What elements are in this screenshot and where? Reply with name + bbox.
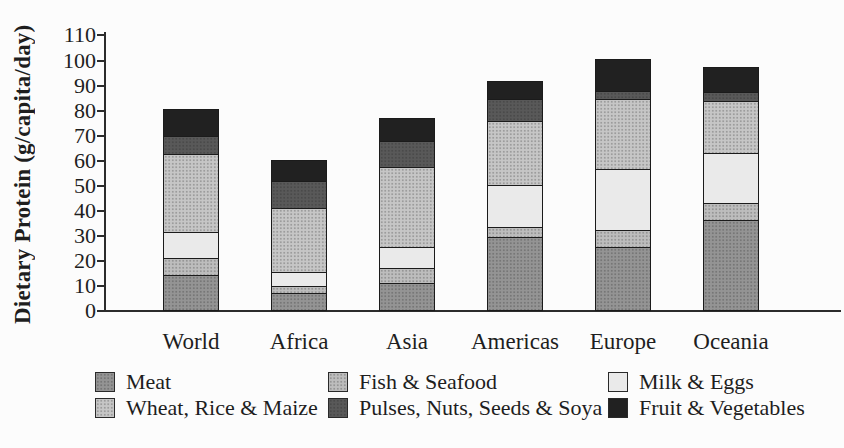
bar-segment xyxy=(595,99,651,169)
y-tick-mark xyxy=(97,135,105,137)
bar-segment xyxy=(163,109,219,135)
legend-swatch-icon xyxy=(608,372,628,392)
y-tick-label: 30 xyxy=(36,225,96,247)
y-tick-mark xyxy=(97,60,105,62)
bar-segment xyxy=(703,220,759,311)
bar-segment xyxy=(703,92,759,101)
legend-item: Meat xyxy=(95,371,328,392)
legend-swatch-icon xyxy=(95,372,115,392)
bar-segment xyxy=(271,293,327,311)
bar-segment xyxy=(271,160,327,181)
y-tick-label: 80 xyxy=(36,100,96,122)
bar-americas xyxy=(487,81,543,311)
y-tick-label: 60 xyxy=(36,150,96,172)
bar-segment xyxy=(163,136,219,155)
legend-item: Fish & Seafood xyxy=(328,371,608,392)
y-tick-label: 90 xyxy=(36,75,96,97)
bar-segment xyxy=(703,203,759,219)
legend-swatch-icon xyxy=(608,398,628,418)
y-tick-label: 70 xyxy=(36,125,96,147)
bar-segment xyxy=(703,101,759,154)
legend-swatch-icon xyxy=(95,398,115,418)
bar-segment xyxy=(703,153,759,203)
legend-label: Milk & Eggs xyxy=(639,371,754,392)
bar-segment xyxy=(487,185,543,228)
bar-segment xyxy=(595,247,651,311)
bar-segment xyxy=(487,227,543,237)
y-tick-label: 100 xyxy=(36,50,96,72)
x-tick-label: World xyxy=(136,329,246,355)
legend-label: Meat xyxy=(126,371,171,392)
y-tick-label: 20 xyxy=(36,250,96,272)
bar-segment xyxy=(703,67,759,92)
bar-segment xyxy=(271,181,327,209)
bar-segment xyxy=(379,118,435,141)
legend-label: Fruit & Vegetables xyxy=(639,397,805,418)
y-tick-mark xyxy=(97,110,105,112)
bar-segment xyxy=(379,283,435,311)
y-axis-line xyxy=(104,32,106,312)
y-tick-label: 0 xyxy=(36,300,96,322)
bar-segment xyxy=(271,286,327,294)
bar-segment xyxy=(163,258,219,274)
x-tick-label: Asia xyxy=(352,329,462,355)
bar-segment xyxy=(595,91,651,100)
x-tick-label: Europe xyxy=(568,329,678,355)
y-axis-title: Dietary Protein (g/capita/day) xyxy=(8,28,38,320)
bar-segment xyxy=(271,208,327,272)
y-tick-mark xyxy=(97,235,105,237)
bar-segment xyxy=(163,275,219,311)
x-tick-label: Americas xyxy=(460,329,570,355)
bar-segment xyxy=(379,268,435,283)
bar-segment xyxy=(595,169,651,229)
bar-europe xyxy=(595,59,651,311)
bar-segment xyxy=(379,167,435,247)
legend-swatch-icon xyxy=(328,398,348,418)
bar-segment xyxy=(595,230,651,248)
bar-segment xyxy=(487,121,543,185)
y-tick-mark xyxy=(97,85,105,87)
bar-segment xyxy=(271,272,327,286)
legend: MeatFish & SeafoodMilk & EggsWheat, Rice… xyxy=(95,371,805,418)
bar-africa xyxy=(271,160,327,312)
legend-label: Pulses, Nuts, Seeds & Soya xyxy=(359,397,602,418)
y-tick-label: 10 xyxy=(36,275,96,297)
y-tick-mark xyxy=(97,285,105,287)
bar-world xyxy=(163,109,219,311)
y-tick-mark xyxy=(97,185,105,187)
legend-item: Wheat, Rice & Maize xyxy=(95,397,328,418)
legend-item: Fruit & Vegetables xyxy=(608,397,805,418)
legend-label: Fish & Seafood xyxy=(359,371,497,392)
y-tick-mark xyxy=(97,210,105,212)
bar-segment xyxy=(487,81,543,100)
bar-segment xyxy=(163,154,219,232)
legend-item: Milk & Eggs xyxy=(608,371,805,392)
y-tick-mark xyxy=(97,160,105,162)
bar-segment xyxy=(595,59,651,90)
bar-segment xyxy=(163,232,219,258)
bar-segment xyxy=(487,99,543,120)
bar-segment xyxy=(487,237,543,311)
x-tick-label: Africa xyxy=(244,329,354,355)
y-tick-label: 110 xyxy=(36,24,96,46)
legend-item: Pulses, Nuts, Seeds & Soya xyxy=(328,397,608,418)
bar-oceania xyxy=(703,67,759,311)
legend-swatch-icon xyxy=(328,372,348,392)
bar-asia xyxy=(379,118,435,311)
y-tick-label: 40 xyxy=(36,200,96,222)
bar-segment xyxy=(379,247,435,268)
y-tick-label: 50 xyxy=(36,175,96,197)
x-tick-label: Oceania xyxy=(676,329,786,355)
y-tick-mark xyxy=(97,310,105,312)
y-tick-mark xyxy=(97,260,105,262)
y-tick-mark xyxy=(97,34,105,36)
stacked-bar-chart-figure: Dietary Protein (g/capita/day) 010203040… xyxy=(0,0,844,448)
legend-label: Wheat, Rice & Maize xyxy=(126,397,318,418)
bar-segment xyxy=(379,141,435,167)
